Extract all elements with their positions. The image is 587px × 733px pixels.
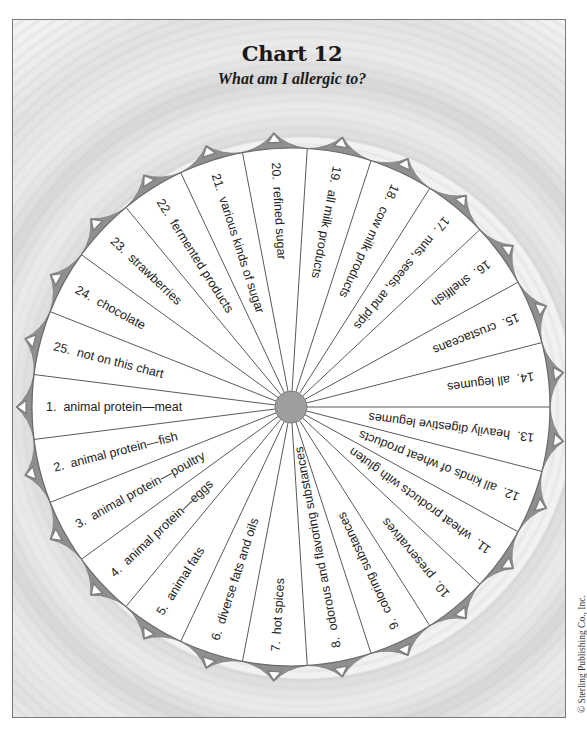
- sector-number: 20.: [269, 162, 284, 187]
- sector-number: 1.: [46, 400, 63, 414]
- pointer-triangle-icon: [334, 138, 347, 148]
- sector-number: 7.: [269, 634, 284, 652]
- sector-text: animal protein—meat: [63, 400, 182, 414]
- center-hub: [275, 391, 307, 423]
- sector-label: 1. animal protein—meat: [46, 400, 183, 414]
- copyright-notice: © Sterling Publishing Co., Inc.: [577, 595, 587, 713]
- pointer-triangle-icon: [334, 666, 347, 676]
